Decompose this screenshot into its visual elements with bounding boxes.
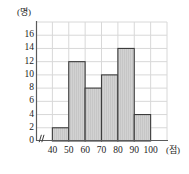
y-axis-tick-label: 6	[14, 96, 34, 106]
y-axis-tick-label: 4	[14, 110, 34, 120]
bar	[85, 88, 101, 141]
bar	[52, 128, 68, 141]
x-axis-unit-label: (점)	[166, 145, 180, 155]
y-axis-tick-label: 0	[14, 136, 34, 146]
plot-area	[36, 22, 167, 141]
bar	[102, 75, 118, 141]
y-axis-tick-labels: 0246810121416	[12, 0, 34, 174]
bar-series	[36, 22, 167, 141]
y-axis-tick-label: 2	[14, 123, 34, 133]
x-axis-tick-label: 100	[138, 145, 164, 155]
histogram-screenshot: (명) 0246810121416 (점) 405060708090100	[0, 0, 189, 174]
axis-break-icon	[37, 134, 46, 143]
y-axis-tick-label: 14	[14, 43, 34, 53]
y-axis-tick-label: 16	[14, 30, 34, 40]
y-axis-tick-label: 8	[14, 83, 34, 93]
bar	[69, 62, 85, 141]
y-axis-tick-label: 12	[14, 57, 34, 67]
y-axis-tick-label: 10	[14, 70, 34, 80]
bar	[134, 115, 150, 141]
bar	[118, 48, 134, 141]
